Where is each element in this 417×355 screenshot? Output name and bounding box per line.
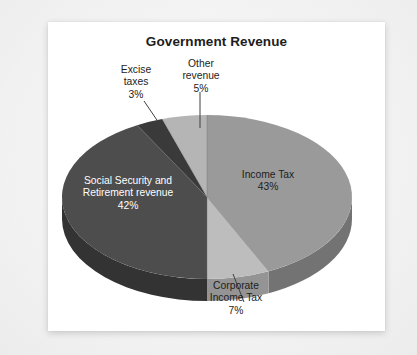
label-other-line1: Other <box>166 58 236 70</box>
label-other-line2: revenue <box>166 70 236 82</box>
label-corporate-line2: Income Tax <box>188 292 284 304</box>
label-excise-taxes: Excise taxes 3% <box>104 64 168 101</box>
label-income-value: 43% <box>218 181 318 193</box>
chart-card: Government Revenue Excise taxes 3% Other… <box>48 22 385 331</box>
label-corporate-line1: Corporate <box>188 280 284 292</box>
label-social-line2: Retirement revenue <box>56 187 200 199</box>
label-social-line1: Social Security and <box>56 175 200 187</box>
label-other-value: 5% <box>166 83 236 95</box>
label-excise-value: 3% <box>104 89 168 101</box>
label-income-tax: Income Tax 43% <box>218 169 318 194</box>
label-other-revenue: Other revenue 5% <box>166 58 236 95</box>
label-social-security: Social Security and Retirement revenue 4… <box>56 175 200 212</box>
label-income-line1: Income Tax <box>218 169 318 181</box>
label-excise-line1: Excise <box>104 64 168 76</box>
label-excise-line2: taxes <box>104 76 168 88</box>
label-social-value: 42% <box>56 200 200 212</box>
label-corporate-value: 7% <box>188 305 284 317</box>
label-corporate-income-tax: Corporate Income Tax 7% <box>188 280 284 317</box>
